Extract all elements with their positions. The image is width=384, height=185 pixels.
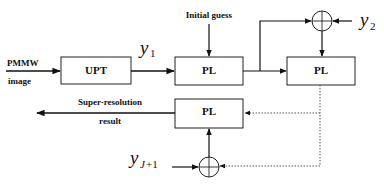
top-summing-junction <box>312 11 332 31</box>
bottom-summing-junction <box>199 157 219 177</box>
svg-text:2: 2 <box>370 20 376 32</box>
diagram-canvas: PMMW image UPT y 1 Initial guess PL y 2 … <box>0 0 384 185</box>
initial-guess-label: Initial guess <box>186 10 233 20</box>
pl1-block: PL <box>175 57 243 85</box>
svg-text:1: 1 <box>150 47 156 59</box>
svg-text:y: y <box>358 9 369 30</box>
svg-text:y: y <box>128 147 139 168</box>
y2-signal-label: y 2 <box>358 9 376 32</box>
svg-text:y: y <box>138 37 149 58</box>
y1-signal-label: y 1 <box>138 37 156 59</box>
pl3-label: PL <box>202 105 216 117</box>
input-label-line2: image <box>8 76 31 86</box>
output-label-line2: result <box>99 116 121 126</box>
svg-text:+1: +1 <box>146 158 158 170</box>
pl2-label: PL <box>314 64 328 76</box>
pl1-label: PL <box>202 64 216 76</box>
upt-label: UPT <box>85 64 108 76</box>
upt-block: UPT <box>61 57 131 84</box>
pl3-block: PL <box>175 99 243 128</box>
pl2-block: PL <box>287 57 355 85</box>
yj1-signal-label: y J +1 <box>128 147 158 170</box>
input-label-line1: PMMW <box>7 58 39 68</box>
output-label-line1: Super-resolution <box>78 97 142 107</box>
